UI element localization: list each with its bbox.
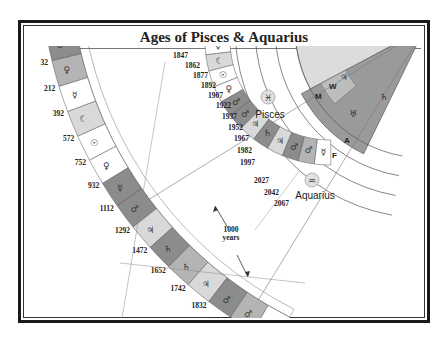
outer-band-year: 572 — [63, 134, 75, 143]
saturn-glyph: ♄ — [380, 92, 388, 102]
annotation-years: years — [222, 233, 239, 242]
inner-band-symbol: ☿ — [215, 41, 221, 51]
outer-band-symbol: ♃ — [147, 225, 155, 235]
outer-band-symbol: ☿ — [117, 183, 123, 193]
outer-band-year: 148BC — [21, 31, 43, 40]
inner-band-symbol: ♂ — [214, 26, 222, 36]
outer-band-year: 392 — [53, 109, 65, 118]
inner-band-symbol: ☉ — [219, 70, 227, 80]
outer-band-symbol: ☿ — [72, 90, 78, 100]
outer-band-year: 1472 — [132, 246, 147, 255]
outer-band-year: 1292 — [115, 226, 130, 235]
diagram-content: MWAF♃♄♅♂148BC♀32☿212☾392☉572♀752☿932♂111… — [21, 6, 425, 344]
outer-band-symbol: ♂ — [222, 295, 230, 305]
outer-band-year: 932 — [88, 181, 100, 190]
outer-band-year: 1832 — [191, 301, 206, 310]
inner-band-year: 1967 — [234, 134, 249, 143]
inner-band-segment — [205, 22, 231, 39]
outer-band-symbol: ♄ — [164, 244, 172, 254]
inner-band-year: 1847 — [173, 51, 188, 60]
aquarius-icon: ♒ — [308, 176, 316, 186]
inner-band-symbol: ♂ — [304, 145, 312, 155]
inner-band-year: 1922 — [216, 101, 231, 110]
inner-band-year: 1997 — [240, 158, 255, 167]
ring-label-f: F — [332, 151, 337, 160]
inner-band-symbol: ☿ — [321, 147, 327, 157]
inner-band-year: 1982 — [237, 146, 252, 155]
outer-band-symbol: ☾ — [80, 114, 88, 124]
arrow-up-head — [213, 206, 218, 212]
outer-band-year: 32 — [41, 58, 49, 67]
outer-band-year: 1742 — [171, 284, 186, 293]
inner-band-symbol: ♂ — [290, 142, 298, 152]
outer-band-symbol: ♀ — [103, 161, 110, 171]
inner-band-symbol: ♄ — [263, 128, 271, 138]
outer-band-symbol: ♂ — [57, 40, 65, 50]
inner-band-symbol: ♂ — [232, 97, 240, 107]
inner-band-symbol: ♂ — [216, 11, 224, 21]
inner-band-year: 1877 — [193, 71, 208, 80]
jupiter-glyph: ♃ — [340, 72, 348, 82]
inner-band-year: 1907 — [208, 91, 223, 100]
inner-band-symbol: ♀ — [225, 84, 232, 94]
pisces-icon: ♓ — [264, 93, 272, 103]
outer-band-symbol: ☿ — [268, 322, 274, 332]
inner-band-year: 1937 — [222, 112, 237, 121]
inner-band-symbol: ♂ — [241, 109, 249, 119]
outer-band-year: 212 — [44, 84, 56, 93]
inner-band-year: 2027 — [254, 176, 269, 185]
outer-band-year: 2012 — [213, 316, 228, 325]
arrow-down-head — [245, 271, 250, 277]
inner-band-year: 2067 — [274, 199, 289, 208]
outer-band-symbol: ♀ — [64, 65, 71, 75]
uranus-glyph: ♅ — [349, 109, 357, 119]
inner-band-symbol: ☾ — [215, 56, 223, 66]
inner-band-symbol: ♃ — [276, 136, 284, 146]
ring-label-a: A — [344, 136, 350, 145]
outer-band-year: 1652 — [151, 266, 166, 275]
outer-band-symbol: ♃ — [202, 279, 210, 289]
inner-band-segment — [206, 6, 234, 26]
aquarius-label: Aquarius — [295, 190, 334, 201]
outer-band-year: 2192 — [236, 331, 251, 340]
outer-band-year: 1112 — [100, 204, 114, 213]
pisces-label: Pisces — [255, 109, 284, 120]
ring-label-m: M — [315, 92, 322, 101]
outer-band-symbol: ♂ — [244, 309, 252, 319]
astrology-diagram: MWAF♃♄♅♂148BC♀32☿212☾392☉572♀752☿932♂111… — [0, 0, 442, 344]
inner-band-year: 2042 — [264, 188, 279, 197]
inner-band-year: 1862 — [185, 61, 200, 70]
inner-band-year: 1952 — [228, 123, 243, 132]
inner-band-year: 1892 — [201, 81, 216, 90]
outer-band-symbol: ☉ — [90, 138, 98, 148]
inner-band-symbol: ♃ — [252, 119, 260, 129]
outer-band-year: 752 — [75, 158, 87, 167]
ring-label-w: W — [329, 82, 337, 91]
outer-band-symbol: ♂ — [130, 204, 138, 214]
